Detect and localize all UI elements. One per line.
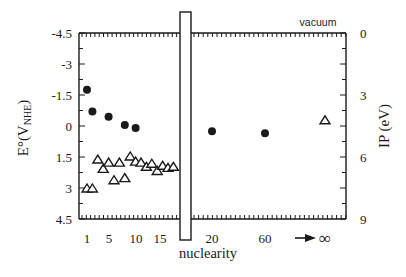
x-tick-label: 60 xyxy=(259,231,272,246)
right-axis-ticks xyxy=(340,33,346,219)
data-markers xyxy=(82,86,330,192)
x-tick-label: 10 xyxy=(130,231,143,246)
data-point-triangle xyxy=(93,155,103,163)
right-axis-label: IP (eV) xyxy=(376,104,393,148)
data-point-circle xyxy=(132,124,140,132)
x-axis-tick-labels: 1 5 10 15 20 60 xyxy=(84,231,272,246)
right-tick-label: 3 xyxy=(360,88,367,103)
data-point-circle xyxy=(83,86,91,94)
left-axis-label-subscript: NHE xyxy=(22,105,33,126)
data-point-circle xyxy=(121,121,129,129)
data-point-triangle xyxy=(320,116,330,124)
left-tick-label: 1.5 xyxy=(56,150,72,165)
data-point-circle xyxy=(208,127,216,135)
data-point-triangle xyxy=(109,176,119,184)
x-tick-label: 15 xyxy=(154,231,167,246)
data-point-circle xyxy=(105,113,113,121)
data-point-triangle xyxy=(147,159,157,167)
x-axis-label: nuclearity xyxy=(179,245,238,261)
left-axis-label-close: ) xyxy=(15,100,32,105)
arrow-right-icon xyxy=(295,234,316,242)
data-point-circle xyxy=(261,129,269,137)
data-point-triangle xyxy=(120,174,130,182)
left-tick-label: 4.5 xyxy=(56,212,72,227)
left-axis-label-main: E°(V xyxy=(15,125,32,156)
chart: -4.5 -3 -1.5 0 1.5 3 4.5 0 3 6 9 1 5 10 … xyxy=(0,0,406,277)
data-point-triangle xyxy=(125,152,135,160)
left-axis-label: E°(VNHE) xyxy=(15,100,33,157)
left-axis-tick-labels: -4.5 -3 -1.5 0 1.5 3 4.5 xyxy=(51,26,72,227)
left-tick-label: -4.5 xyxy=(51,26,72,41)
right-tick-label: 6 xyxy=(360,150,367,165)
data-point-circle xyxy=(88,108,96,116)
x-tick-label: 1 xyxy=(84,231,91,246)
x-tick-label: 20 xyxy=(206,231,219,246)
left-tick-label: -3 xyxy=(61,57,72,72)
axes xyxy=(79,33,346,219)
left-tick-label: 3 xyxy=(66,181,73,196)
x-tick-label: 5 xyxy=(106,231,113,246)
right-tick-label: 9 xyxy=(360,212,367,227)
data-point-triangle xyxy=(104,158,114,166)
right-tick-label: 0 xyxy=(360,26,367,41)
right-axis-tick-labels: 0 3 6 9 xyxy=(360,26,367,227)
axis-break-box xyxy=(180,12,191,240)
data-point-triangle xyxy=(114,158,124,166)
left-tick-label: -1.5 xyxy=(51,88,72,103)
infinity-label: ∞ xyxy=(319,229,331,248)
left-tick-label: 0 xyxy=(66,119,73,134)
vacuum-annotation: vacuum xyxy=(300,16,337,28)
